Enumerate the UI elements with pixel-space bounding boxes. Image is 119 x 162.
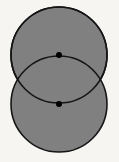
two-circles-diagram	[0, 0, 119, 162]
upper-center-point	[56, 52, 62, 58]
lower-center-point	[56, 101, 62, 107]
figure-canvas	[0, 0, 119, 162]
